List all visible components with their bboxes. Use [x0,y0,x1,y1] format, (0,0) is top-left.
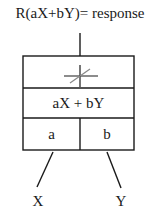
summation-threshold-icon [64,65,98,87]
weight-a-label: a [23,126,80,142]
input-x-label: X [26,193,50,209]
input-line-x [37,152,53,187]
input-y-label: Y [109,193,133,209]
weight-b-label: b [80,126,134,142]
weighted-sum-label: aX + bY [23,95,134,111]
input-line-y [107,152,121,188]
